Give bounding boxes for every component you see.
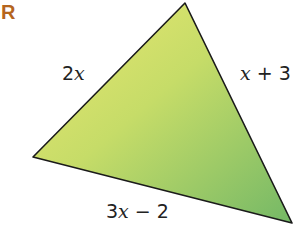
triangle-diagram <box>0 0 295 225</box>
coefficient: 2 <box>62 62 74 84</box>
side-label-right: x + 3 <box>240 64 291 83</box>
figure-label: R <box>1 2 15 22</box>
variable: x <box>240 62 251 84</box>
variable: x <box>118 200 129 222</box>
side-label-left: 2x <box>62 64 85 83</box>
side-label-bottom: 3x − 2 <box>106 202 169 221</box>
constant-term: + 3 <box>251 62 291 84</box>
variable: x <box>74 62 85 84</box>
constant-term: − 2 <box>129 200 169 222</box>
triangle-shape <box>33 3 292 223</box>
coefficient: 3 <box>106 200 118 222</box>
